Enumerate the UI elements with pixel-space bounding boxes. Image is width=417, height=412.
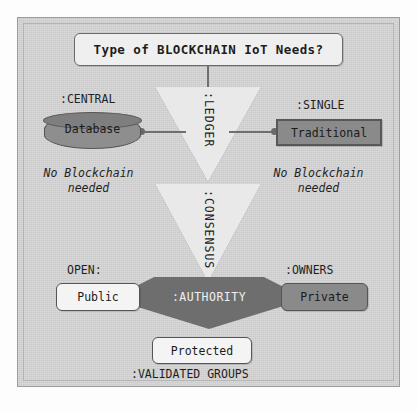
edge-label-open: OPEN: xyxy=(67,263,102,277)
outcome-protected-box: Protected xyxy=(152,337,252,364)
outcome-public-box: Public xyxy=(56,283,140,311)
outcome-traditional-label: Traditional xyxy=(291,126,367,140)
edge-label-single: :SINGLE xyxy=(296,98,344,112)
annotation-right-line1: No Blockchain xyxy=(273,166,363,180)
connector-ledger-to-traditional xyxy=(229,131,277,133)
annotation-right-line2: needed xyxy=(298,181,340,195)
outcome-database-label: Database xyxy=(44,122,141,136)
outcome-protected-label: Protected xyxy=(171,344,233,358)
edge-label-validated-groups: :VALIDATED GROUPS xyxy=(131,367,249,381)
edge-label-central: :CENTRAL xyxy=(60,92,115,106)
edge-label-owners: :OWNERS xyxy=(285,263,333,277)
diagram-canvas: Type of BLOCKCHAIN IoT Needs? :LEDGER :C… xyxy=(0,0,417,412)
connector-title-to-ledger xyxy=(207,66,209,87)
decision-authority-diamond: :AUTHORITY xyxy=(111,277,307,329)
decision-ledger-label: :LEDGER xyxy=(202,92,216,147)
annotation-left-no-blockchain: No Blockchain needed xyxy=(26,166,151,196)
annotation-left-line1: No Blockchain xyxy=(43,166,133,180)
outcome-private-box: Private xyxy=(281,283,368,311)
connector-ledger-to-database xyxy=(141,131,186,133)
outcome-public-label: Public xyxy=(77,290,119,304)
diagram-title-box: Type of BLOCKCHAIN IoT Needs? xyxy=(74,33,343,66)
annotation-right-no-blockchain: No Blockchain needed xyxy=(256,166,381,196)
decision-consensus-label: :CONSENSUS xyxy=(202,190,216,269)
outcome-private-label: Private xyxy=(300,290,348,304)
page-title: Type of BLOCKCHAIN IoT Needs? xyxy=(94,42,324,57)
outcome-traditional-box: Traditional xyxy=(276,119,382,146)
annotation-left-line2: needed xyxy=(68,181,110,195)
decision-authority-label: :AUTHORITY xyxy=(111,290,307,304)
